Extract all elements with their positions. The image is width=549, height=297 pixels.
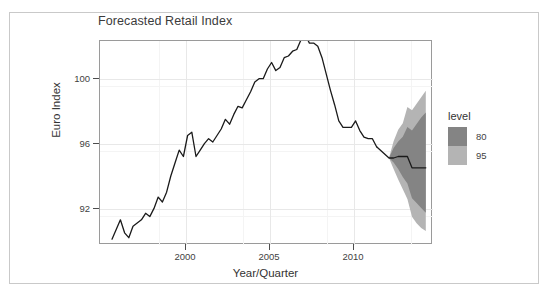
screenshot-root: Forecasted Retail Index Euro Index 100 9… bbox=[0, 0, 549, 297]
plot-panel bbox=[99, 40, 432, 244]
chart-figure: Forecasted Retail Index Euro Index 100 9… bbox=[0, 0, 549, 297]
x-tick-label-2000: 2000 bbox=[165, 251, 205, 262]
legend-title: level bbox=[448, 110, 518, 122]
legend-item-80: 80 bbox=[448, 127, 518, 146]
y-tick-label-96: 96 bbox=[62, 138, 90, 149]
x-tick-label-2005: 2005 bbox=[249, 251, 289, 262]
y-tick-label-100: 100 bbox=[62, 73, 90, 84]
legend-label-80: 80 bbox=[476, 131, 487, 142]
chart-legend: level 80 95 bbox=[448, 110, 518, 165]
x-tickmark-2010 bbox=[353, 244, 354, 250]
plot-svg bbox=[100, 41, 433, 245]
x-axis-title: Year/Quarter bbox=[99, 267, 432, 279]
x-tickmark-2000 bbox=[185, 244, 186, 250]
x-tickmark-2005 bbox=[269, 244, 270, 250]
y-tick-label-92: 92 bbox=[62, 203, 90, 214]
legend-swatch-95 bbox=[448, 146, 467, 165]
chart-title: Forecasted Retail Index bbox=[98, 14, 232, 28]
legend-label-95: 95 bbox=[476, 150, 487, 161]
x-tick-label-2010: 2010 bbox=[333, 251, 373, 262]
y-axis-title: Euro Index bbox=[50, 50, 62, 170]
legend-swatch-80 bbox=[448, 127, 467, 146]
legend-item-95: 95 bbox=[448, 146, 518, 165]
